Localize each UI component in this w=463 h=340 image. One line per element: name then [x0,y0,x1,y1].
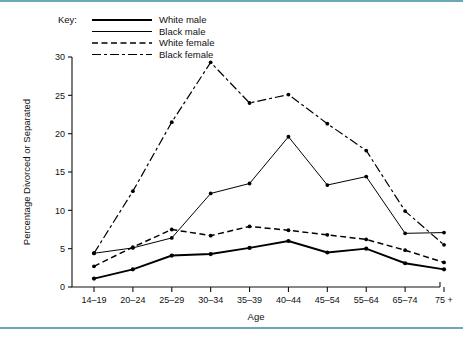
series-point [92,251,96,255]
series-point [248,225,252,229]
x-axis-title: Age [248,311,265,322]
x-tick-label: 40–44 [276,295,301,305]
series-point [325,122,329,126]
series-point [209,60,213,64]
series-point [325,183,329,187]
series-point [287,228,291,232]
legend-entry-label: Black female [159,49,213,60]
y-tick-label: 30 [55,52,65,62]
line-chart: Key:White maleBlack maleWhite femaleBlac… [0,0,463,340]
series-point [92,276,96,280]
series-point [364,247,368,251]
axis-lines [72,57,440,287]
series-point [442,231,446,235]
series-point [325,233,329,237]
series-point [248,101,252,105]
series-point [247,246,251,250]
legend-entry-label: White male [159,14,207,25]
series-point [170,236,174,240]
series-point [442,243,446,247]
series-point [403,248,407,252]
y-axis-title: Percentage Divorced or Separated [21,99,32,245]
series-point [209,192,213,196]
figure-container: Key:White maleBlack maleWhite femaleBlac… [0,0,463,340]
series-point [403,231,407,235]
series-point [403,261,407,265]
series-point [209,234,213,238]
series-point [170,253,174,257]
series-point [364,238,368,242]
x-tick-label: 35–39 [237,295,262,305]
series-point [131,267,135,271]
series-point [131,245,135,249]
series-point [131,189,135,193]
x-tick-label: 45–54 [315,295,340,305]
series-point [170,120,174,124]
y-tick-label: 10 [55,206,65,216]
series-point [92,264,96,268]
y-tick-label: 20 [55,129,65,139]
y-tick-label: 0 [60,282,65,292]
series-point [287,93,291,97]
legend-key-label: Key: [58,14,77,25]
x-tick-label: 25–29 [159,295,184,305]
series-point [286,239,290,243]
x-tick-label: 20–24 [120,295,145,305]
y-tick-label: 5 [60,244,65,254]
series-line [94,226,444,266]
legend-entry-label: Black male [159,26,205,37]
series-point [364,175,368,179]
series-point [287,135,291,139]
legend-entry-label: White female [159,37,214,48]
y-tick-label: 15 [55,167,65,177]
series-point [364,149,368,153]
series-point [209,252,213,256]
y-tick-label: 25 [55,91,65,101]
series-point [325,250,329,254]
series-point [248,182,252,186]
x-tick-label: 55–64 [354,295,379,305]
series-line [94,137,444,254]
x-tick-label: 30–34 [198,295,223,305]
series-point [442,267,446,271]
chart-legend: Key:White maleBlack maleWhite femaleBlac… [58,14,214,60]
series-line [94,62,444,253]
x-tick-label: 65–74 [393,295,418,305]
x-tick-label: 75 + [435,295,453,305]
series-point [403,209,407,213]
series-point [170,228,174,232]
series-point [442,261,446,265]
x-tick-label: 14–19 [81,295,106,305]
chart-series [92,60,446,280]
